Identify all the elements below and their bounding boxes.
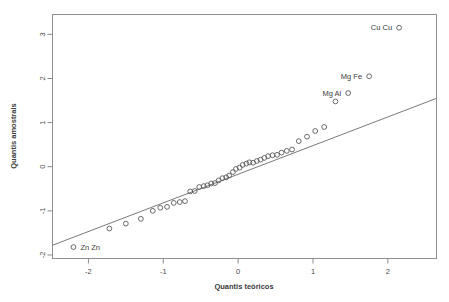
point-annotation-label: Zn Zn [80, 243, 100, 252]
y-tick-label: 1 [38, 121, 47, 125]
point-annotation-label: Mg Al [322, 89, 341, 98]
x-tick-label: 1 [311, 267, 315, 276]
x-tick-label: 0 [236, 267, 240, 276]
figure-background [0, 0, 449, 302]
qq-plot-figure: -2-1012 -2-10123 Zn ZnMg AlMg FeCu Cu Qu… [0, 0, 449, 302]
x-axis-title: Quantis teóricos [214, 282, 273, 291]
y-axis-title: Quantis amostrais [9, 103, 18, 168]
point-annotation-label: Cu Cu [371, 23, 392, 32]
point-annotation-label: Mg Fe [341, 72, 362, 81]
y-tick-label: 0 [38, 165, 47, 169]
qq-plot-screenshot: -2-1012 -2-10123 Zn ZnMg AlMg FeCu Cu Qu… [0, 0, 449, 302]
x-tick-label: -1 [160, 267, 167, 276]
x-tick-label: 2 [386, 267, 390, 276]
y-tick-label: 3 [38, 32, 47, 36]
y-tick-label: -1 [38, 208, 47, 215]
y-tick-label: 2 [38, 76, 47, 80]
y-tick-label: -2 [38, 252, 47, 259]
x-tick-label: -2 [85, 267, 92, 276]
